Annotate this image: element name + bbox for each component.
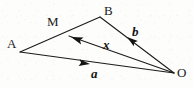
- point-label-o: O: [177, 66, 186, 79]
- point-label-a: A: [7, 37, 16, 50]
- vector-label-b: b: [132, 25, 139, 38]
- point-label-b: B: [104, 4, 113, 17]
- segment-m-to-o: [69, 36, 174, 73]
- vector-label-x: x: [103, 38, 110, 51]
- segment-a-to-b: [20, 17, 100, 52]
- vector-diagram-figure: A B O M a b x: [0, 0, 193, 88]
- arrowhead-vector-x: [70, 34, 84, 45]
- point-label-m: M: [47, 15, 59, 28]
- vector-label-a: a: [91, 67, 98, 80]
